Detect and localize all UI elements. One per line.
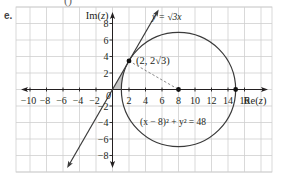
axis-point [176,87,181,92]
part-label: e. [4,11,12,21]
line-arrow-bottom-icon [67,161,73,168]
cropped-paren-right: ) [68,0,72,6]
circle-equation-label: (x − 8)² + y² = 48 [140,117,206,128]
x-tick-label: −4 [73,95,84,106]
x-tick-label: 14 [223,95,233,106]
axis-point [233,87,238,92]
y-axis-label: Im(z) [86,10,109,22]
x-tick-label: 2 [127,95,132,106]
x-tick-label: 4 [143,95,148,106]
x-tick-label: −6 [56,95,67,106]
y-tick-label: 6 [104,35,109,46]
y-tick-label: −6 [98,134,109,145]
x-tick-label: 6 [160,95,165,106]
plot-area: −10−8−6−4−202468101214168642−2−4−6−8 Im(… [0,0,284,175]
x-tick-label: −8 [40,95,51,106]
curves [67,9,238,168]
y-tick-label: 2 [104,68,109,79]
y-tick-label: −4 [98,117,109,128]
x-axis-label: Re(z) [244,95,267,107]
complex-plane-figure: ( ) e. −10−8−6−4−202468101214168642−2−4−… [0,0,284,175]
point-coordinate-label: (2, 2√3) [136,55,170,67]
origin-label: 0 [106,90,111,101]
x-tick-label: 12 [207,95,217,106]
x-tick-label: 10 [190,95,200,106]
x-tick-label: −10 [21,95,37,106]
y-tick-label: −8 [98,150,109,161]
x-tick-label: 8 [176,95,181,106]
line-equation-label: y = √3x [151,12,182,22]
y-tick-label: −2 [98,101,109,112]
intersection-point [127,59,132,64]
axes [21,12,268,168]
y-tick-label: 4 [104,51,109,62]
